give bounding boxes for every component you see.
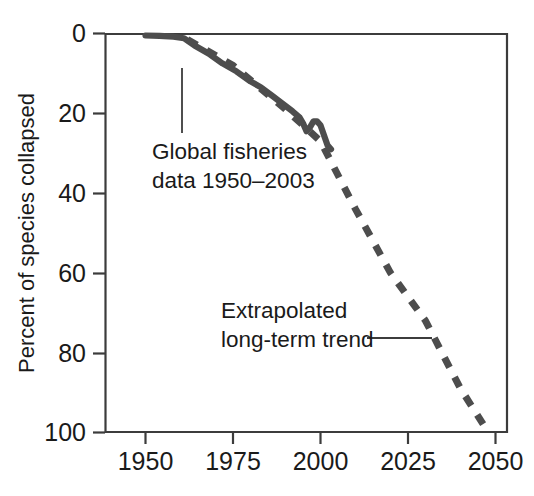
x-tick-label-2000: 2000 — [293, 447, 349, 475]
x-tick-label-1950: 1950 — [118, 447, 174, 475]
extrapolated-trend-label-line1: Extrapolated — [221, 298, 347, 323]
y-tick-label-80: 80 — [58, 339, 86, 367]
x-tick-label-2025: 2025 — [380, 447, 436, 475]
species-collapse-line-chart: 0 20 40 60 80 100 1950 1975 2000 2025 20… — [0, 0, 534, 496]
y-tick-label-0: 0 — [72, 19, 86, 47]
series-extrapolated-trend-line — [188, 39, 489, 432]
y-tick-label-100: 100 — [44, 418, 86, 446]
data-series-group — [146, 35, 489, 432]
y-tick-label-20: 20 — [58, 99, 86, 127]
extrapolated-trend-label-line2: long-term trend — [221, 327, 374, 352]
x-tick-label-2050: 2050 — [468, 447, 524, 475]
x-axis-tick-labels: 1950 1975 2000 2025 2050 — [118, 447, 524, 475]
x-axis-ticks — [146, 432, 496, 444]
y-tick-label-60: 60 — [58, 259, 86, 287]
global-fisheries-label-line2: data 1950–2003 — [152, 168, 315, 193]
global-fisheries-annotation: Global fisheries data 1950–2003 — [152, 68, 315, 193]
global-fisheries-label-line1: Global fisheries — [152, 139, 307, 164]
plot-frame — [106, 33, 509, 433]
y-tick-label-40: 40 — [58, 179, 86, 207]
y-axis-ticks — [93, 34, 105, 433]
y-axis-title: Percent of species collapsed — [14, 93, 39, 373]
extrapolated-trend-annotation: Extrapolated long-term trend — [221, 298, 432, 352]
series-global-fisheries-line — [146, 35, 332, 149]
y-axis-tick-labels: 0 20 40 60 80 100 — [44, 19, 86, 446]
x-tick-label-1975: 1975 — [205, 447, 261, 475]
chart-container: 0 20 40 60 80 100 1950 1975 2000 2025 20… — [0, 0, 534, 496]
